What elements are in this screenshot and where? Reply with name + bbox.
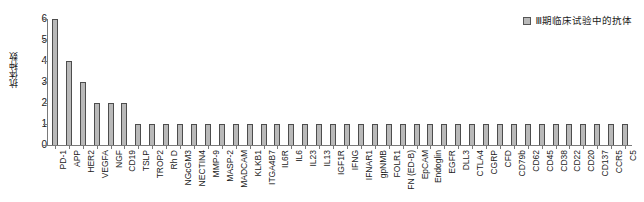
x-tick-mark: [514, 145, 515, 149]
bar: [497, 124, 503, 145]
y-axis-title: 抗体种数: [8, 52, 22, 88]
x-label-slot: CGRP: [479, 150, 493, 202]
x-label-slot: HER2: [76, 150, 90, 202]
y-tick-mark: [43, 145, 47, 146]
bar: [205, 124, 211, 145]
x-label-slot: CD62: [521, 150, 535, 202]
y-tick-mark: [43, 103, 47, 104]
x-label-slot: APP: [62, 150, 76, 202]
y-tick-mark: [43, 82, 47, 83]
bar: [94, 103, 100, 145]
x-label-slot: FOLR1: [382, 150, 396, 202]
x-label-slot: C5: [618, 150, 632, 202]
bar-slot: [451, 19, 465, 145]
bar: [358, 124, 364, 145]
bar: [66, 61, 72, 145]
bar: [414, 124, 420, 145]
bar: [261, 124, 267, 145]
bar: [622, 124, 628, 145]
x-tick-mark: [625, 145, 626, 149]
bar: [80, 82, 86, 145]
x-tick-mark: [166, 145, 167, 149]
bar-slot: [465, 19, 479, 145]
x-label-slot: CD45: [535, 150, 549, 202]
x-tick-mark: [597, 145, 598, 149]
x-label-slot: IFNAR1: [354, 150, 368, 202]
bar: [247, 124, 253, 145]
bar-slot: [576, 19, 590, 145]
bar-slot: [229, 19, 243, 145]
bar-chart: Ⅲ期临床试验中的抗体 抗体种数 0123456 PD-1APPHER2VEGFA…: [0, 0, 644, 202]
x-label-slot: CD38: [549, 150, 563, 202]
bar: [288, 124, 294, 145]
x-tick-mark: [208, 145, 209, 149]
x-tick-mark: [556, 145, 557, 149]
bar: [302, 124, 308, 145]
x-label-slot: TROP2: [145, 150, 159, 202]
bar-slot: [118, 19, 132, 145]
x-label-slot: NGF: [104, 150, 118, 202]
x-label-slot: FN (ED-B): [396, 150, 410, 202]
x-label-slot: KLKB1: [243, 150, 257, 202]
bar: [539, 124, 545, 145]
x-label-slot: CD79b: [507, 150, 521, 202]
x-tick-mark: [236, 145, 237, 149]
x-tick-mark: [111, 145, 112, 149]
bar: [566, 124, 572, 145]
bar: [483, 124, 489, 145]
x-tick-mark: [375, 145, 376, 149]
bar-slot: [257, 19, 271, 145]
bar-slot: [215, 19, 229, 145]
bar: [455, 124, 461, 145]
bar: [330, 124, 336, 145]
x-tick-mark: [138, 145, 139, 149]
x-tick-mark: [389, 145, 390, 149]
bar-slot: [521, 19, 535, 145]
bar-slot: [48, 19, 62, 145]
bar-slot: [618, 19, 632, 145]
bar-slot: [90, 19, 104, 145]
x-tick-mark: [500, 145, 501, 149]
x-tick-mark: [69, 145, 70, 149]
bar: [108, 103, 114, 145]
bar: [580, 124, 586, 145]
x-tick-mark: [83, 145, 84, 149]
x-label-slot: IFNG: [340, 150, 354, 202]
x-tick-mark: [291, 145, 292, 149]
x-label-slot: IGF1R: [326, 150, 340, 202]
bar: [233, 124, 239, 145]
bar-slot: [410, 19, 424, 145]
x-tick-mark: [124, 145, 125, 149]
bar-slot: [326, 19, 340, 145]
x-tick-mark: [611, 145, 612, 149]
x-axis-line: [47, 145, 632, 146]
x-tick-mark: [444, 145, 445, 149]
x-label-slot: ITGA4B7: [257, 150, 271, 202]
bar: [316, 124, 322, 145]
bar-slot: [62, 19, 76, 145]
bar-slot: [298, 19, 312, 145]
bar-slot: [382, 19, 396, 145]
x-tick-mark: [528, 145, 529, 149]
bar-slot: [396, 19, 410, 145]
bar-slot: [354, 19, 368, 145]
x-tick-mark: [486, 145, 487, 149]
y-tick-mark: [43, 40, 47, 41]
bar: [400, 124, 406, 145]
x-tick-mark: [458, 145, 459, 149]
bar: [177, 124, 183, 145]
bar: [163, 124, 169, 145]
bar-slot: [145, 19, 159, 145]
x-label-slot: Rh D: [159, 150, 173, 202]
bar-slot: [159, 19, 173, 145]
x-tick-mark: [264, 145, 265, 149]
x-tick-mark: [55, 145, 56, 149]
bar-slot: [604, 19, 618, 145]
y-tick-mark: [43, 124, 47, 125]
x-tick-mark: [250, 145, 251, 149]
x-label-slot: CD19: [118, 150, 132, 202]
x-label-slot: TSLP: [131, 150, 145, 202]
x-label-slot: IL6: [284, 150, 298, 202]
y-tick-mark: [43, 19, 47, 20]
bar-slot: [284, 19, 298, 145]
